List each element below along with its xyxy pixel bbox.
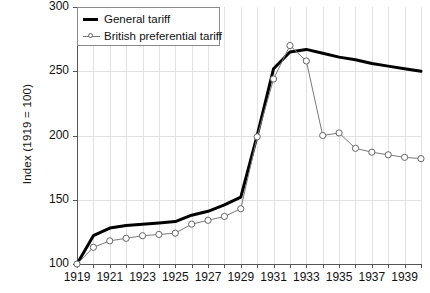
legend-label-british: British preferential tariff (104, 30, 222, 42)
y-tick-label-100: 100 (29, 256, 69, 270)
axes (73, 7, 422, 268)
y-tick-label-250: 250 (29, 63, 69, 77)
tariff-index-line-chart: Index (1919 = 100) General tariff Britis… (0, 0, 430, 293)
y-tick-label-200: 200 (29, 128, 69, 142)
legend-item-general-tariff: General tariff (82, 10, 215, 27)
legend-line-marker-icon-british (82, 30, 102, 42)
y-tick-label-300: 300 (29, 0, 69, 13)
series-line-general-tariff (77, 49, 421, 264)
x-tick-label-1939: 1939 (385, 270, 425, 284)
y-tick-label-150: 150 (29, 192, 69, 206)
chart-legend: General tariff British preferential tari… (77, 7, 220, 46)
legend-line-icon-general (82, 13, 102, 25)
source-note (2, 286, 428, 293)
legend-label-general: General tariff (104, 13, 170, 25)
legend-item-british-preferential-tariff: British preferential tariff (82, 27, 215, 44)
